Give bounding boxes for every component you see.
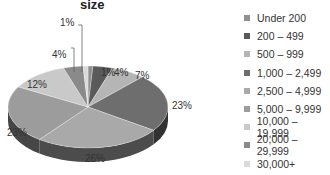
data-label: 23%	[172, 100, 192, 111]
data-label: 7%	[135, 70, 149, 81]
legend-item: 2,500 – 4,999	[244, 82, 330, 100]
legend-label: 2,500 – 4,999	[257, 85, 321, 97]
data-label: 12%	[27, 79, 47, 90]
legend-item: 200 – 499	[244, 27, 330, 45]
legend-item: 500 – 999	[244, 45, 330, 63]
legend-label: 200 – 499	[257, 30, 304, 42]
legend-swatch-icon	[244, 70, 250, 76]
legend-swatch-icon	[244, 33, 250, 39]
data-label: 26%	[85, 153, 105, 164]
legend-label: 5,000 – 9,999	[257, 103, 321, 115]
legend-label: Under 200	[257, 12, 306, 24]
leader-line	[78, 25, 82, 72]
legend-swatch-icon	[244, 161, 250, 167]
leader-lines	[71, 25, 82, 72]
legend-swatch-icon	[244, 88, 250, 94]
legend-label: 30,000+	[257, 158, 295, 170]
data-label: 4%	[52, 49, 66, 60]
legend-item: Under 200	[244, 9, 330, 27]
legend-swatch-icon	[244, 106, 250, 112]
legend-label: 500 – 999	[257, 48, 304, 60]
legend-label: 1,000 – 2,499	[257, 67, 321, 79]
legend-label: 20,000 – 29,999	[257, 133, 330, 157]
data-label: 23%	[7, 127, 27, 138]
legend: Under 200 200 – 499 500 – 999 1,000 – 2,…	[244, 9, 330, 173]
legend-swatch-icon	[244, 51, 250, 57]
legend-item: 20,000 – 29,999	[244, 136, 330, 154]
data-label: 1%	[60, 17, 74, 28]
legend-swatch-icon	[244, 124, 250, 130]
legend-swatch-icon	[244, 15, 250, 21]
data-label: 4%	[114, 67, 128, 78]
legend-item: 1,000 – 2,499	[244, 64, 330, 82]
legend-swatch-icon	[244, 142, 250, 148]
